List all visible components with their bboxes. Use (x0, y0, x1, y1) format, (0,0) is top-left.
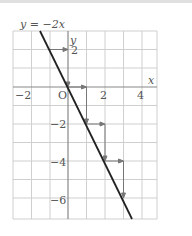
y-tick-minus-6: −6 (50, 194, 66, 207)
equation-label: y = −2x (19, 18, 66, 31)
origin-label: O (58, 89, 67, 102)
x-tick-minus-2: −2 (15, 89, 31, 102)
graph-y-equals-minus-2x: y = −2x y x O −2 2 4 2 −2 −4 −6 (0, 0, 192, 236)
x-tick-4: 4 (137, 89, 144, 102)
y-tick-minus-2: −2 (50, 118, 66, 131)
y-tick-minus-4: −4 (50, 156, 66, 169)
x-tick-2: 2 (100, 89, 107, 102)
x-axis-label: x (148, 74, 155, 87)
y-tick-2: 2 (71, 44, 78, 57)
